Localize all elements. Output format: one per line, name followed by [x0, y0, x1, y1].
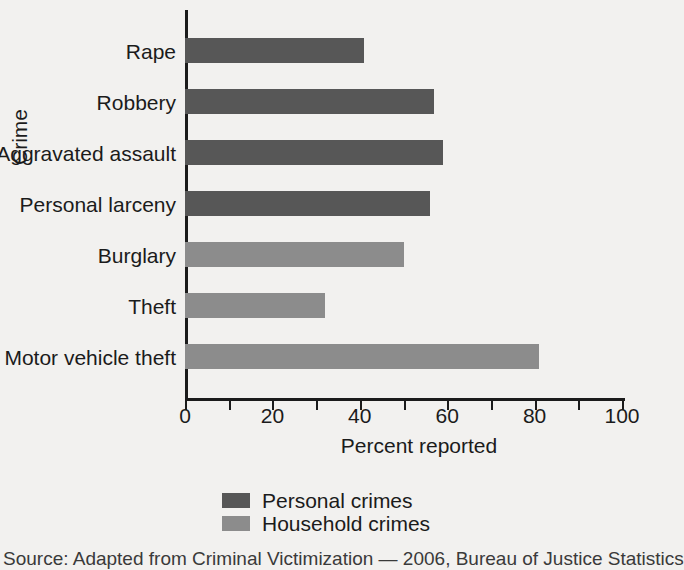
y-category-label: Personal larceny — [20, 192, 176, 217]
x-tick-label-20: 20 — [261, 404, 284, 428]
x-axis-tick — [229, 401, 231, 410]
x-tick-label-80: 80 — [523, 404, 546, 428]
legend-label-household-crimes: Household crimes — [262, 512, 430, 535]
plot-area — [185, 10, 622, 398]
x-axis-tick — [491, 401, 493, 410]
x-tick-label-40: 40 — [348, 404, 371, 428]
y-category-label: Robbery — [97, 90, 176, 115]
legend-item-household-crimes: Household crimes — [222, 512, 430, 535]
legend-swatch-personal-crimes — [222, 493, 250, 508]
x-tick-label-0: 0 — [179, 404, 191, 428]
bar — [185, 293, 325, 318]
x-tick-label-60: 60 — [436, 404, 459, 428]
y-category-label: Aggravated assault — [0, 141, 176, 166]
y-category-label: Theft — [128, 294, 176, 319]
x-axis-tick — [578, 401, 580, 410]
bar — [185, 140, 443, 165]
legend-label-personal-crimes: Personal crimes — [262, 489, 413, 512]
chart-legend: Personal crimes Household crimes — [222, 489, 430, 535]
source-note: Source: Adapted from Criminal Victimizat… — [3, 548, 684, 570]
y-category-label: Motor vehicle theft — [4, 345, 176, 370]
bar — [185, 89, 434, 114]
x-axis-tick — [316, 401, 318, 410]
x-axis-tick — [404, 401, 406, 410]
legend-swatch-household-crimes — [222, 516, 250, 531]
bar — [185, 38, 364, 63]
x-axis-title: Percent reported — [0, 434, 650, 458]
legend-item-personal-crimes: Personal crimes — [222, 489, 430, 512]
y-category-label: Rape — [126, 39, 176, 64]
bar — [185, 242, 404, 267]
bar — [185, 344, 539, 369]
bar — [185, 191, 430, 216]
y-category-label: Burglary — [98, 243, 176, 268]
x-tick-label-100: 100 — [604, 404, 639, 428]
